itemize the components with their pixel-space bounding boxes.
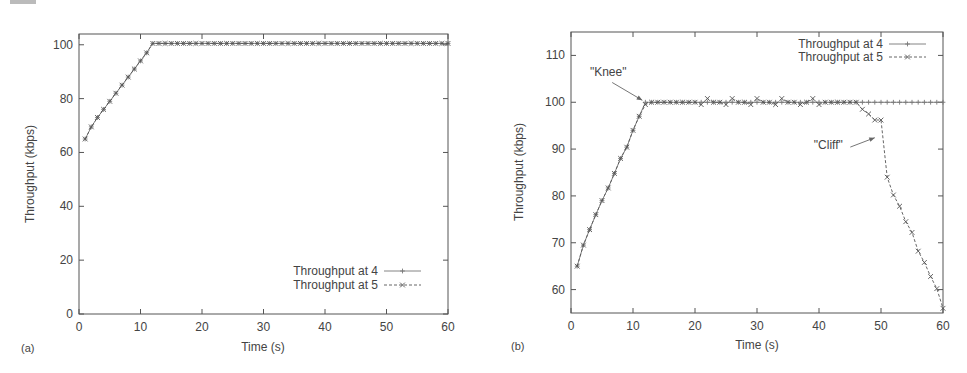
x-tick-label: 10 — [134, 320, 148, 334]
y-tick-label: 80 — [552, 189, 566, 203]
legend: Throughput at 4 Throughput at 5 — [798, 37, 926, 64]
y-tick-label: 110 — [546, 48, 565, 62]
series-line-1 — [577, 102, 943, 266]
x-tick-label: 50 — [380, 320, 394, 334]
y-tick-label: 40 — [60, 199, 74, 213]
legend-label-series-2: Throughput at 5 — [293, 278, 378, 292]
y-tick-label: 100 — [53, 38, 73, 52]
x-tick-label: 60 — [441, 320, 455, 334]
x-axis-label: Time (s) — [241, 340, 285, 354]
x-tick-label: 0 — [76, 320, 83, 334]
series-markers-1 — [575, 100, 946, 269]
x-tick-label: 30 — [257, 320, 271, 334]
annotations: "Knee""Cliff" — [590, 65, 875, 152]
x-tick-label: 50 — [874, 319, 888, 333]
chart-b: 60708090100110 0102030405060 "Knee""Clif… — [511, 32, 950, 352]
series-group — [575, 96, 946, 311]
legend-label-series-1: Throughput at 4 — [293, 264, 378, 278]
figure: 020406080100 0102030405060 Throughput (k… — [0, 0, 967, 373]
y-tick-label: 90 — [552, 142, 566, 156]
x-tick-label: 40 — [318, 320, 332, 334]
y-tick-label: 100 — [545, 95, 565, 109]
series-markers-1 — [83, 41, 451, 141]
series-group — [83, 41, 451, 141]
y-tick-label: 70 — [552, 236, 566, 250]
arrowhead-icon — [869, 138, 875, 142]
panel-label: (b) — [511, 340, 524, 352]
panel-label: (a) — [21, 342, 34, 354]
y-tick-label: 0 — [66, 307, 73, 321]
series-line-1 — [85, 43, 448, 139]
x-tick-label: 20 — [195, 320, 209, 334]
x-tick-label: 20 — [688, 319, 702, 333]
plot-frame — [79, 34, 448, 314]
y-tick-label: 60 — [60, 145, 74, 159]
series-markers-2 — [575, 96, 946, 311]
series-markers-2 — [83, 41, 451, 141]
x-axis-label: Time (s) — [735, 338, 779, 352]
legend-label-series-1: Throughput at 4 — [798, 37, 883, 51]
y-axis-ticks: 60708090100110 — [545, 48, 943, 296]
x-tick-label: 10 — [626, 319, 640, 333]
legend-swatches — [889, 42, 926, 60]
y-axis-label: Throughput (kbps) — [23, 125, 37, 223]
y-tick-label: 20 — [60, 253, 74, 267]
x-tick-label: 40 — [812, 319, 826, 333]
legend-swatches — [384, 269, 421, 288]
y-tick-label: 80 — [60, 92, 74, 106]
x-tick-label: 0 — [568, 319, 575, 333]
y-axis-label: Throughput (kbps) — [512, 123, 526, 221]
annotation-label: "Knee" — [590, 65, 627, 79]
x-tick-label: 60 — [936, 319, 950, 333]
x-tick-label: 30 — [750, 319, 764, 333]
legend: Throughput at 4 Throughput at 5 — [293, 264, 421, 292]
annotation-label: "Cliff" — [814, 138, 843, 152]
plot-frame — [571, 32, 943, 313]
series-line-2 — [85, 43, 448, 139]
chart-a: 020406080100 0102030405060 Throughput (k… — [21, 34, 455, 354]
x-axis-ticks: 0102030405060 — [76, 34, 455, 334]
arrowhead-icon — [636, 95, 642, 100]
legend-label-series-2: Throughput at 5 — [798, 50, 883, 64]
y-axis-ticks: 020406080100 — [53, 38, 448, 321]
y-tick-label: 60 — [552, 283, 566, 297]
